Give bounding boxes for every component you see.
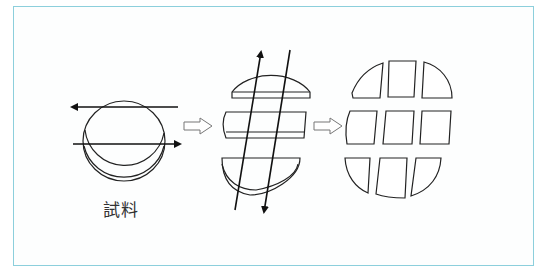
sample-label: 試料	[103, 196, 139, 221]
process-arrow-2	[314, 118, 342, 134]
process-arrow-1	[184, 118, 212, 134]
three-strips	[222, 75, 310, 195]
sample-disc	[83, 101, 165, 181]
nine-pieces	[345, 61, 452, 198]
cut-arrow-up	[235, 52, 261, 210]
